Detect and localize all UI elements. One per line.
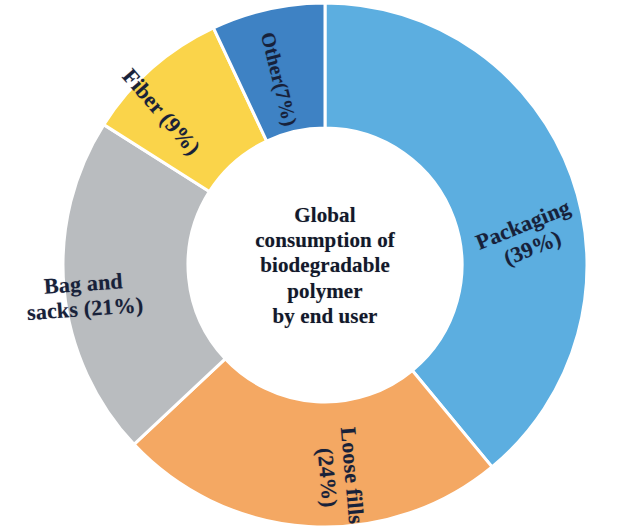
slice-label-bag-and-sacks: Bag andsacks (21%) <box>24 268 144 325</box>
donut-chart: Global consumption of biodegradable poly… <box>0 0 636 532</box>
chart-center-title: Global consumption of biodegradable poly… <box>188 185 462 347</box>
center-title-line-1: Global <box>294 203 355 228</box>
slice-label-loose-fills: Loose fills(24%) <box>311 426 369 527</box>
center-title-line-5: by end user <box>273 304 378 329</box>
center-title-line-3: biodegradable <box>260 253 390 278</box>
center-title-line-4: polymer <box>287 279 362 304</box>
center-title-line-2: consumption of <box>255 228 395 253</box>
